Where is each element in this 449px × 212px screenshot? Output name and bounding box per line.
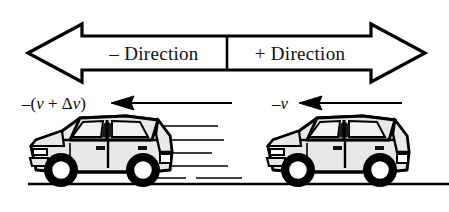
- direction-axis-arrow: [28, 24, 425, 82]
- car-headlight: [270, 149, 284, 155]
- car-taillight: [160, 154, 171, 163]
- right-velocity-label: –v: [271, 94, 289, 113]
- car-door-handle: [375, 146, 384, 150]
- left-velocity-vector: –(v + Δv): [21, 94, 232, 113]
- minus-direction-label: – Direction: [108, 43, 199, 64]
- right-velocity-vector: –v: [271, 94, 402, 113]
- car-wheel-rear: [126, 153, 160, 187]
- car-rear: [30, 116, 172, 187]
- car-taillight: [397, 154, 408, 163]
- plus-direction-label: + Direction: [255, 43, 346, 64]
- left-vector-arrowhead: [111, 96, 134, 110]
- car-door-handle: [333, 146, 342, 150]
- car-door-handle: [138, 146, 147, 150]
- car-wheel-front: [281, 153, 315, 187]
- car-headlight: [33, 149, 47, 155]
- physics-velocity-diagram: – Direction + Direction –(v + Δv) –v: [0, 0, 449, 212]
- car-wheel-front: [44, 153, 78, 187]
- car-door-handle: [96, 146, 105, 150]
- left-velocity-label: –(v + Δv): [21, 94, 86, 113]
- car-tail: [156, 120, 172, 152]
- car-front: [267, 116, 409, 187]
- car-tail: [393, 120, 409, 152]
- right-vector-arrowhead: [299, 96, 322, 110]
- car-wheel-rear: [363, 153, 397, 187]
